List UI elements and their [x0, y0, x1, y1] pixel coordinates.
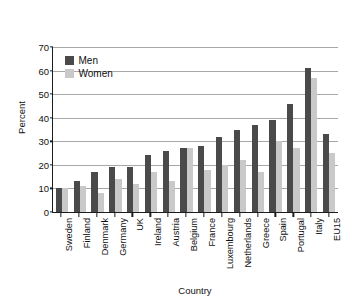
legend-swatch-icon [65, 56, 74, 65]
x-label-cell: Belgium [177, 218, 195, 280]
bar-group [178, 47, 196, 212]
x-tick-mark [257, 213, 258, 217]
bar-women-germany [115, 179, 121, 212]
bar-group [196, 47, 214, 212]
x-tick-mark [114, 213, 115, 217]
bar-group [267, 47, 285, 212]
x-tick-mark [132, 213, 133, 217]
x-tick-mark [96, 213, 97, 217]
x-label-cell: Denmark [88, 218, 106, 280]
legend-item-men: Men [65, 55, 113, 66]
bar-group [320, 47, 338, 212]
cropped-text-sliver [6, 0, 76, 7]
x-label-cell: UK [124, 218, 142, 280]
bar-group [231, 47, 249, 212]
x-label-cell: Italy [302, 218, 320, 280]
x-label-cell: Greece [249, 218, 267, 280]
bar-women-spain [276, 141, 282, 212]
bar-group [285, 47, 303, 212]
y-tick-label: 50 [38, 89, 49, 100]
bar-women-luxembourg [222, 165, 228, 212]
y-tick-label: 60 [38, 65, 49, 76]
legend-swatch-icon [65, 69, 74, 78]
x-label-cell: Ireland [141, 218, 159, 280]
x-label-cell: Portugal [284, 218, 302, 280]
legend-label: Men [79, 55, 98, 66]
x-label-cell: Spain [267, 218, 285, 280]
x-axis-title: Country [52, 285, 338, 296]
chart-legend: MenWomen [65, 55, 113, 79]
x-label-cell: Germany [106, 218, 124, 280]
bar-group [302, 47, 320, 212]
x-tick-mark [221, 213, 222, 217]
bar-women-denmark [98, 193, 104, 212]
x-label-cell: Sweden [52, 218, 70, 280]
x-label-cell: Netherlands [231, 218, 249, 280]
bar-women-ireland [151, 172, 157, 212]
x-axis-labels: SwedenFinlandDenmarkGermanyUKIrelandAust… [52, 218, 338, 280]
x-tick-mark [185, 213, 186, 217]
x-tick-mark [150, 213, 151, 217]
bar-women-belgium [187, 148, 193, 212]
bar-women-eu15 [329, 153, 335, 212]
plot-area: 010203040506070 MenWomen [52, 47, 338, 213]
x-tick-mark [203, 213, 204, 217]
x-label-cell: Austria [159, 218, 177, 280]
x-tick-mark [239, 213, 240, 217]
bar-women-greece [258, 172, 264, 212]
x-tick-mark [328, 213, 329, 217]
bar-women-portugal [293, 148, 299, 212]
x-tick-mark [168, 213, 169, 217]
x-tick-mark [275, 213, 276, 217]
y-tick-label: 20 [38, 159, 49, 170]
y-tick-label: 30 [38, 136, 49, 147]
x-tick-mark [60, 213, 61, 217]
y-tick-label: 70 [38, 42, 49, 53]
bar-women-austria [169, 181, 175, 212]
bar-group [249, 47, 267, 212]
x-tick-mark [311, 213, 312, 217]
bar-women-sweden [62, 188, 68, 212]
x-label-cell: Luxembourg [213, 218, 231, 280]
y-axis-title: Percent [16, 88, 27, 148]
bar-women-italy [311, 78, 317, 212]
bar-chart-figure: Percent 010203040506070 MenWomen SwedenF… [0, 0, 353, 304]
bar-women-france [204, 170, 210, 212]
x-tick-label: EU15 [333, 218, 342, 241]
bar-women-netherlands [240, 160, 246, 212]
y-tick-label: 10 [38, 183, 49, 194]
bar-group [213, 47, 231, 212]
legend-label: Women [79, 68, 113, 79]
x-tick-mark [293, 213, 294, 217]
bar-group [160, 47, 178, 212]
x-label-cell: EU15 [320, 218, 338, 280]
bar-women-finland [80, 186, 86, 212]
legend-item-women: Women [65, 68, 113, 79]
bar-group [142, 47, 160, 212]
x-tick-mark [78, 213, 79, 217]
x-label-cell: France [195, 218, 213, 280]
x-label-cell: Finland [70, 218, 88, 280]
y-tick-label: 0 [44, 207, 49, 218]
bar-group [124, 47, 142, 212]
y-tick-label: 40 [38, 112, 49, 123]
bar-women-uk [133, 184, 139, 212]
